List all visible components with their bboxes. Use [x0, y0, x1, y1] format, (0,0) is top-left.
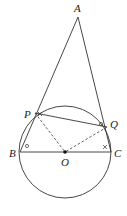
label-a: A — [73, 2, 81, 14]
diagram-svg: A P Q B C O — [0, 0, 127, 216]
center-point-o — [63, 150, 67, 154]
label-o: O — [61, 156, 69, 168]
label-q: Q — [110, 118, 118, 130]
geometry-diagram: A P Q B C O — [0, 0, 127, 216]
label-b: B — [9, 147, 16, 159]
label-p: P — [23, 108, 31, 120]
segment-ac — [78, 17, 111, 152]
segment-oq-dashed — [65, 127, 107, 152]
angle-mark-b-circle-icon — [25, 144, 28, 147]
angle-mark-c-cross-icon — [103, 145, 107, 149]
label-c: C — [114, 147, 122, 159]
segment-pq — [35, 113, 107, 127]
segment-op-dashed — [35, 113, 65, 152]
